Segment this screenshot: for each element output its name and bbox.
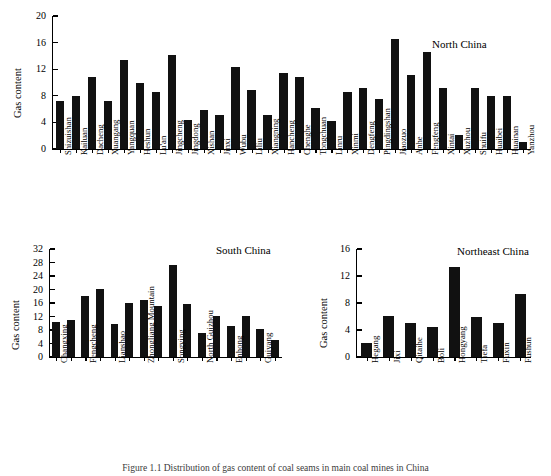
northeast-y-tick [357, 248, 362, 249]
south-y-tick [50, 275, 55, 276]
x-axis-label: Huainan [511, 126, 520, 155]
x-axis-label: Lu'an [159, 136, 168, 155]
south-x-tick [129, 358, 130, 361]
south-y-tick [50, 289, 55, 290]
northeast-y-tick [357, 329, 362, 330]
north-x-tick [379, 150, 380, 153]
south-y-tick-label: 24 [17, 271, 43, 281]
north-x-tick [331, 150, 332, 153]
x-axis-label: Dacheng [96, 124, 105, 155]
chart-northeast-china: Gas content Northeast China 0481216Hegan… [310, 240, 551, 440]
south-x-tick [275, 358, 276, 361]
x-axis-label: Jixi [393, 350, 402, 363]
x-axis-label: Fushun [524, 337, 533, 363]
south-y-tick-label: 12 [17, 312, 43, 322]
x-axis-label: North Guizhou [206, 310, 215, 363]
x-axis-label: Shuifu [479, 132, 488, 155]
north-y-tick-label: 0 [20, 144, 46, 154]
north-x-tick [443, 150, 444, 153]
north-x-tick [411, 150, 412, 153]
south-x-tick [202, 358, 203, 361]
north-x-tick [363, 150, 364, 153]
x-axis-label: Shizuishan [64, 117, 73, 155]
south-x-tick [85, 358, 86, 361]
northeast-y-tick-label: 4 [324, 325, 350, 335]
x-axis-label: Songying [177, 329, 186, 363]
x-axis-label: Dengfeng [367, 121, 376, 155]
x-axis-label: Xuzhou [463, 128, 472, 155]
x-axis-label: Hancheng [287, 120, 296, 155]
northeast-x-tick [433, 358, 434, 361]
x-axis-label: Anhe [415, 136, 424, 155]
south-y-tick [50, 302, 55, 303]
x-axis-label: Yanzhou [527, 125, 536, 155]
x-axis-label: Enhong [235, 336, 244, 363]
northeast-x-tick [411, 358, 412, 361]
x-axis-label: Wubu [239, 134, 248, 155]
north-x-tick [299, 150, 300, 153]
northeast-y-tick [357, 302, 362, 303]
x-axis-label: Xuangang [111, 120, 120, 155]
x-axis-label: Jiaozuo [399, 129, 408, 155]
x-axis-label: Xishan [207, 131, 216, 155]
north-x-tick [507, 150, 508, 153]
north-y-tick [53, 95, 58, 96]
north-y-tick [53, 42, 58, 43]
north-x-tick [236, 150, 237, 153]
south-x-tick [100, 358, 101, 361]
south-x-tick [231, 358, 232, 361]
chart-south-china: Gas content South China 048121620242832C… [0, 240, 300, 440]
x-axis-label: Linru [335, 136, 344, 155]
north-x-tick [395, 150, 396, 153]
x-axis-label: Qitaihe [415, 337, 424, 363]
north-x-tick [76, 150, 77, 153]
x-axis-label: Fuxin [502, 342, 511, 363]
south-x-axis [49, 357, 282, 358]
north-x-tick [220, 150, 221, 153]
northeast-y-tick-label: 16 [324, 244, 350, 254]
x-axis-label: Jingdong [191, 123, 200, 155]
northeast-y-tick-label: 8 [324, 298, 350, 308]
south-y-tick [50, 316, 55, 317]
x-axis-label: Yangquan [127, 121, 136, 155]
northeast-plot-area: 0481216HegangJixiQitaiheBoliHongyangTief… [356, 249, 531, 357]
north-plot-area: 048121620ShizuishanKailuanDachengXuangan… [52, 16, 531, 149]
south-x-tick [187, 358, 188, 361]
x-axis-label: Guiyang [264, 333, 273, 363]
south-x-tick [216, 358, 217, 361]
north-x-tick [108, 150, 109, 153]
north-y-tick [53, 69, 58, 70]
northeast-x-tick [476, 358, 477, 361]
south-x-tick [173, 358, 174, 361]
south-y-tick-label: 16 [17, 298, 43, 308]
south-x-tick [144, 358, 145, 361]
north-x-tick [459, 150, 460, 153]
figure-caption: Figure 1.1 Distribution of gas content o… [0, 463, 551, 473]
northeast-x-tick [454, 358, 455, 361]
northeast-y-tick-label: 12 [324, 271, 350, 281]
x-axis-label: Tiefa [480, 345, 489, 363]
south-y-tick-label: 28 [17, 258, 43, 268]
north-x-tick [156, 150, 157, 153]
x-axis-label: Xinmi [351, 133, 360, 155]
north-y-tick [53, 15, 58, 16]
x-axis-label: Lianshao [118, 331, 127, 363]
northeast-y-tick [357, 275, 362, 276]
northeast-x-tick [520, 358, 521, 361]
x-axis-label: Tongchuan [319, 117, 328, 155]
northeast-x-tick [389, 358, 390, 361]
north-y-tick-label: 8 [20, 91, 46, 101]
northeast-x-tick [498, 358, 499, 361]
x-axis-label: Chenghe [303, 124, 312, 155]
northeast-x-tick [367, 358, 368, 361]
south-x-tick [71, 358, 72, 361]
chart-north-china: Gas content North China 048121620Shizuis… [0, 0, 551, 230]
south-y-tick-label: 8 [17, 325, 43, 335]
x-axis-label: Xintai [447, 134, 456, 155]
x-axis-label: Zhongliang Mountain [147, 286, 156, 363]
north-x-tick [523, 150, 524, 153]
x-axis-label: Jingcheng [175, 120, 184, 155]
south-y-tick [50, 262, 55, 263]
south-y-tick-label: 32 [17, 244, 43, 254]
north-x-tick [475, 150, 476, 153]
